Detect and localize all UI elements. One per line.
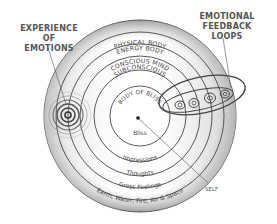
callout-line: EMOTIONAL <box>188 12 266 22</box>
label-bliss: Bliss <box>133 129 147 136</box>
callout-line: EMOTIONS <box>14 44 84 54</box>
ring-body-of-bliss <box>110 86 170 146</box>
callout-line: FEEDBACK LOOPS <box>188 22 266 42</box>
label-self: SELF <box>205 186 218 192</box>
callout-emotional-feedback-loops: EMOTIONAL FEEDBACK LOOPS <box>188 12 266 42</box>
callout-line: EXPERIENCE OF <box>14 24 84 44</box>
callout-experience-of-emotions: EXPERIENCE OF EMOTIONS <box>14 24 84 54</box>
